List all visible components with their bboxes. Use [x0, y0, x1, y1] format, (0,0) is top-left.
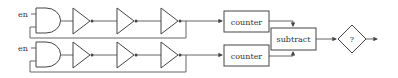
subtract-label: subtract: [277, 35, 312, 44]
inverter-icon: [73, 42, 90, 68]
inverter-icon: [117, 8, 134, 34]
and-gate-icon: [36, 42, 61, 67]
enable-label: en: [18, 10, 28, 19]
inverter-icon: [161, 8, 178, 34]
inverter-icon: [161, 42, 178, 68]
and-gate-icon: [36, 8, 61, 33]
ring-oscillator-diagram: en counter en counter: [0, 0, 398, 78]
decision-label: ?: [350, 35, 354, 44]
oscillator-row-2: en counter: [18, 42, 293, 72]
enable-label: en: [18, 44, 28, 53]
inverter-icon: [73, 8, 90, 34]
counter-label: counter: [231, 52, 263, 61]
counter-label: counter: [231, 18, 263, 27]
inverter-icon: [117, 42, 134, 68]
oscillator-row-1: en counter: [18, 8, 293, 38]
